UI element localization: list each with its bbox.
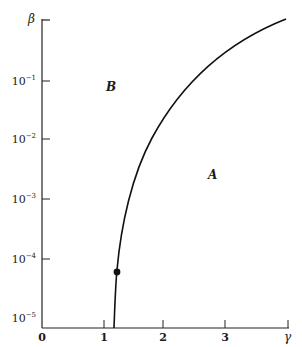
y-tick-label: 10−3	[0, 193, 36, 205]
y-tick-label: 10−4	[0, 253, 36, 265]
x-tick-label: 3	[215, 332, 235, 343]
x-tick-label: 2	[153, 332, 173, 343]
x-tick-label: 1	[94, 332, 114, 343]
region-b-label: B	[106, 80, 116, 94]
y-tick-label: 10−5	[0, 312, 36, 324]
y-tick-label: 10−1	[0, 75, 36, 87]
x-axis-name: γ	[284, 330, 291, 344]
boundary-curve	[114, 19, 286, 328]
region-a-label: A	[208, 168, 217, 182]
marked-point	[114, 269, 121, 276]
y-tick-label: 10−2	[0, 133, 36, 145]
x-tick-label: 0	[32, 332, 52, 343]
y-axis-name: β	[28, 12, 35, 26]
